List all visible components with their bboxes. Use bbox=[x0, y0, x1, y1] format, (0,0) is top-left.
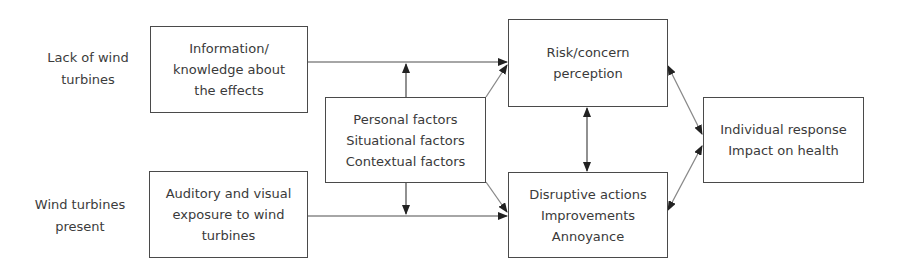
edge-disruptive-individual bbox=[668, 146, 702, 210]
node-text: the effects bbox=[194, 80, 263, 101]
node-individual: Individual response Impact on health bbox=[703, 97, 864, 183]
node-factors: Personal factors Situational factors Con… bbox=[325, 97, 486, 183]
node-information: Information/ knowledge about the effects bbox=[150, 26, 308, 113]
node-disruptive: Disruptive actions Improvements Annoyanc… bbox=[508, 172, 668, 258]
edge-factors-risk bbox=[486, 65, 507, 97]
node-text: Risk/concern bbox=[546, 42, 629, 63]
edge-factors-disruptive bbox=[486, 182, 507, 212]
node-text: turbines bbox=[202, 225, 256, 246]
node-text: Disruptive actions bbox=[529, 184, 647, 205]
label-line: Wind turbines bbox=[20, 194, 140, 216]
edge-risk-individual bbox=[668, 66, 702, 134]
node-text: Improvements bbox=[541, 205, 635, 226]
node-text: knowledge about bbox=[173, 59, 285, 80]
label-wind-turbines-present: Wind turbines present bbox=[20, 194, 140, 238]
node-text: Annoyance bbox=[552, 226, 624, 247]
label-line: present bbox=[20, 216, 140, 238]
label-line: turbines bbox=[28, 69, 148, 91]
node-text: exposure to wind bbox=[173, 204, 285, 225]
label-lack-of-wind-turbines: Lack of wind turbines bbox=[28, 47, 148, 91]
node-text: perception bbox=[553, 63, 623, 84]
node-text: Situational factors bbox=[346, 130, 465, 151]
node-exposure: Auditory and visual exposure to wind tur… bbox=[149, 171, 308, 258]
node-text: Impact on health bbox=[728, 140, 839, 161]
node-text: Contextual factors bbox=[346, 151, 466, 172]
node-text: Individual response bbox=[720, 119, 847, 140]
label-line: Lack of wind bbox=[28, 47, 148, 69]
node-risk: Risk/concern perception bbox=[508, 19, 668, 107]
node-text: Personal factors bbox=[353, 109, 457, 130]
node-text: Information/ bbox=[189, 38, 269, 59]
node-text: Auditory and visual bbox=[166, 183, 292, 204]
